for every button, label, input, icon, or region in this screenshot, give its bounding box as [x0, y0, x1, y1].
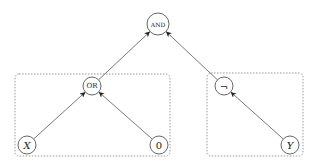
edge-y-to-not	[231, 92, 284, 139]
node-label: X	[22, 140, 31, 151]
edge-or-to-and	[99, 32, 150, 80]
node-label: ¬	[220, 81, 228, 92]
node-not: ¬	[215, 77, 233, 95]
node-y: Y	[281, 136, 299, 154]
node-label: OR	[86, 82, 98, 90]
node-or: OR	[83, 77, 101, 95]
expression-tree-diagram: ANDOR¬X0Y	[0, 0, 324, 167]
edge-not-to-and	[166, 32, 217, 80]
edge-x-to-or	[34, 92, 86, 139]
node-label: 0	[156, 140, 162, 151]
node-label: AND	[150, 21, 166, 28]
edge-zero-to-or	[99, 92, 152, 139]
node-x: X	[18, 136, 36, 154]
node-and: AND	[147, 13, 169, 35]
node-zero: 0	[150, 136, 168, 154]
